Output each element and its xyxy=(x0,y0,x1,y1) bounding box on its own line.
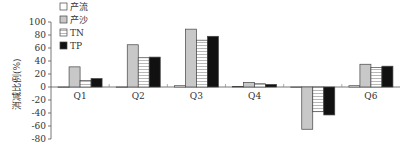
y-tick-label: 80 xyxy=(35,30,47,40)
bar xyxy=(291,87,302,88)
x-tick-label: Q6 xyxy=(364,91,377,101)
bar xyxy=(174,86,185,87)
bar xyxy=(233,86,244,87)
y-tick-label: 20 xyxy=(35,69,47,79)
y-tick-label: 0 xyxy=(40,82,46,92)
y-tick-label: -40 xyxy=(32,108,47,118)
bar xyxy=(185,29,196,87)
bar xyxy=(138,58,149,87)
x-tick-label: Q4 xyxy=(248,91,261,101)
bar xyxy=(266,84,277,87)
x-tick-label: Q1 xyxy=(74,91,87,101)
legend-swatch xyxy=(60,42,67,49)
legend-swatch xyxy=(60,3,67,10)
bar xyxy=(349,86,360,87)
legend-label: 产沙 xyxy=(70,14,88,25)
bar xyxy=(371,68,382,88)
bar xyxy=(127,45,138,87)
bar xyxy=(80,81,91,88)
bar xyxy=(69,67,80,87)
legend-swatch xyxy=(60,29,67,36)
bar xyxy=(313,87,324,112)
y-tick-label: -60 xyxy=(32,121,47,131)
bar xyxy=(255,84,266,87)
bar xyxy=(360,64,371,87)
x-tick-label: Q3 xyxy=(190,91,203,101)
legend: 产流产沙TNTP xyxy=(60,1,88,51)
bar xyxy=(207,36,218,87)
y-tick-label: 40 xyxy=(35,56,47,66)
bar xyxy=(244,82,255,87)
bar xyxy=(382,66,393,87)
bar xyxy=(58,87,69,88)
legend-label: 产流 xyxy=(70,1,88,12)
bar xyxy=(91,79,102,87)
y-tick-label: 100 xyxy=(29,17,46,27)
bar xyxy=(302,87,313,129)
x-tick-label: Q2 xyxy=(132,91,145,101)
y-axis-label: 消减比例(%) xyxy=(11,58,22,110)
y-tick-label: 60 xyxy=(35,43,47,53)
bar xyxy=(149,57,160,87)
y-tick-label: -20 xyxy=(32,95,47,105)
y-tick-label: -80 xyxy=(32,134,47,144)
legend-swatch xyxy=(60,16,67,23)
legend-label: TP xyxy=(70,41,82,51)
legend-label: TN xyxy=(70,28,84,38)
bar-chart: 100806040200-20-40-60-80Q1Q2Q3Q4Q5Q6 产流产… xyxy=(0,0,407,155)
bar xyxy=(196,40,207,87)
bars xyxy=(58,29,393,129)
bar xyxy=(324,87,335,115)
bar xyxy=(116,87,127,88)
